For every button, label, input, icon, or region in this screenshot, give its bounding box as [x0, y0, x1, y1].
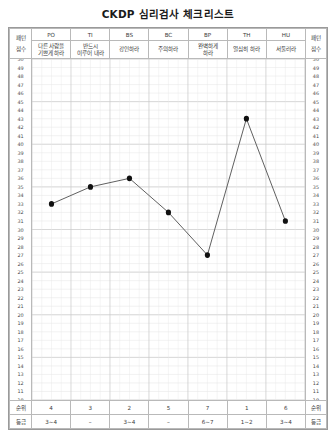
grade-ti: –: [71, 415, 110, 429]
header-code-row: 패턴 점수 PO TI BS BC BP TH HU 패턴 점수: [10, 29, 327, 41]
grade-bs: 3~4: [110, 415, 149, 429]
header-name-bp: 완벽하게하라: [188, 41, 227, 59]
y-tick: 47: [306, 82, 326, 87]
y-tick: 25: [306, 270, 326, 275]
y-tick: 47: [10, 82, 31, 87]
rank-ti: 3: [71, 401, 110, 415]
y-tick: 19: [10, 321, 31, 326]
y-tick: 31: [306, 218, 326, 223]
y-axis-right: 5049484746454443424140393837363534333231…: [305, 59, 326, 401]
y-tick: 16: [306, 346, 326, 351]
corner-right-bottom-label: 점수: [306, 46, 326, 52]
y-tick: 22: [10, 295, 31, 300]
y-tick: 40: [10, 142, 31, 147]
y-tick: 39: [306, 150, 326, 155]
y-tick: 32: [10, 210, 31, 215]
grade-label-left: 등급: [10, 415, 32, 429]
checklist-page: CKDP 심리검사 체크리스트 패턴 점수 PO TI BS BC: [0, 0, 336, 448]
grade-label-right: 등급: [305, 415, 326, 429]
y-tick: 22: [306, 295, 326, 300]
header-code-hu: HU: [266, 29, 305, 41]
y-tick: 15: [10, 355, 31, 360]
y-tick: 12: [306, 380, 326, 385]
corner-left-bottom-label: 점수: [10, 46, 31, 52]
y-tick: 27: [306, 253, 326, 258]
rank-label-left: 순위: [10, 401, 32, 415]
grade-po: 3~4: [32, 415, 71, 429]
y-tick: 37: [306, 167, 326, 172]
y-tick: 16: [10, 346, 31, 351]
y-tick: 44: [306, 108, 326, 113]
y-tick: 41: [10, 133, 31, 138]
grade-row: 등급 3~4 – 3~4 – 6~7 1~2 3~4 등급: [10, 415, 327, 429]
y-tick: 43: [10, 116, 31, 121]
header-name-po: 다른 사람을기쁘게 하라: [32, 41, 71, 59]
y-axis-right-ticks: 5049484746454443424140393837363534333231…: [306, 59, 326, 400]
y-tick: 11: [306, 389, 326, 394]
rank-label-right: 순위: [305, 401, 326, 415]
y-tick: 28: [306, 244, 326, 249]
page-title: CKDP 심리검사 체크리스트: [0, 6, 336, 21]
y-tick: 34: [10, 193, 31, 198]
header-name-bc: 주의하라: [149, 41, 188, 59]
y-tick: 46: [10, 91, 31, 96]
grade-hu: 3~4: [266, 415, 305, 429]
y-tick: 14: [10, 363, 31, 368]
y-axis-left: 5049484746454443424140393837363534333231…: [10, 59, 32, 401]
y-tick: 35: [306, 184, 326, 189]
grade-bc: –: [149, 415, 188, 429]
y-tick: 24: [306, 278, 326, 283]
header-code-bs: BS: [110, 29, 149, 41]
header-code-ti: TI: [71, 29, 110, 41]
y-tick: 48: [10, 74, 31, 79]
y-tick: 42: [306, 125, 326, 130]
rank-th: 1: [227, 401, 266, 415]
header-name-th: 열심히 하라: [227, 41, 266, 59]
y-tick: 18: [306, 329, 326, 334]
y-tick: 17: [10, 338, 31, 343]
y-tick: 43: [306, 116, 326, 121]
y-tick: 36: [306, 176, 326, 181]
y-tick: 20: [306, 312, 326, 317]
y-tick: 20: [10, 312, 31, 317]
y-tick: 41: [306, 133, 326, 138]
header-code-th: TH: [227, 29, 266, 41]
y-tick: 13: [306, 372, 326, 377]
rank-hu: 6: [266, 401, 305, 415]
y-tick: 40: [306, 142, 326, 147]
rank-row: 순위 4 3 2 5 7 1 6 순위: [10, 401, 327, 415]
y-tick: 33: [306, 201, 326, 206]
y-tick: 35: [10, 184, 31, 189]
header-name-ti: 반드시이루어 내라: [71, 41, 110, 59]
y-tick: 23: [306, 287, 326, 292]
y-tick: 36: [10, 176, 31, 181]
rank-po: 4: [32, 401, 71, 415]
y-tick: 29: [306, 236, 326, 241]
y-axis-left-ticks: 5049484746454443424140393837363534333231…: [10, 59, 31, 400]
y-tick: 26: [306, 261, 326, 266]
y-tick: 37: [10, 167, 31, 172]
y-tick: 23: [10, 287, 31, 292]
y-tick: 30: [306, 227, 326, 232]
y-tick: 31: [10, 218, 31, 223]
checklist-table: 패턴 점수 PO TI BS BC BP TH HU 패턴 점수: [9, 28, 327, 429]
header-name-bs: 강인하라: [110, 41, 149, 59]
header-code-bc: BC: [149, 29, 188, 41]
header-code-bp: BP: [188, 29, 227, 41]
header-name-hu: 서둘러라: [266, 41, 305, 59]
y-tick: 48: [306, 74, 326, 79]
y-tick: 50: [10, 59, 31, 62]
grade-bp: 6~7: [188, 415, 227, 429]
y-tick: 34: [306, 193, 326, 198]
y-tick: 13: [10, 372, 31, 377]
y-tick: 38: [10, 159, 31, 164]
y-tick: 46: [306, 91, 326, 96]
chart-body-row: 5049484746454443424140393837363534333231…: [10, 59, 327, 401]
rank-bp: 7: [188, 401, 227, 415]
header-name-row: 다른 사람을기쁘게 하라 반드시이루어 내라 강인하라 주의하라 완벽하게하라 …: [10, 41, 327, 59]
grade-th: 1~2: [227, 415, 266, 429]
y-tick: 19: [306, 321, 326, 326]
y-tick: 39: [10, 150, 31, 155]
rank-bc: 5: [149, 401, 188, 415]
y-tick: 45: [306, 99, 326, 104]
